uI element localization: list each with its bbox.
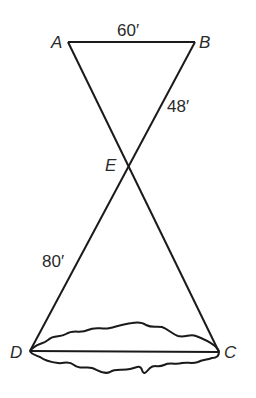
segment-dc (30, 351, 219, 352)
point-label-e: E (105, 156, 117, 175)
point-label-d: D (10, 343, 22, 362)
measurement-ab: 60′ (117, 21, 139, 40)
river-outline (30, 322, 219, 373)
segment-ac (68, 42, 219, 352)
diagram-canvas: A B E D C 60′ 48′ 80′ (0, 0, 256, 398)
measurement-de: 80′ (42, 252, 64, 271)
measurement-be: 48′ (167, 97, 189, 116)
point-label-c: C (224, 343, 237, 362)
segment-bd (30, 42, 195, 351)
geometry-figure: A B E D C 60′ 48′ 80′ (0, 0, 256, 398)
point-label-a: A (50, 33, 62, 52)
point-label-b: B (199, 33, 210, 52)
